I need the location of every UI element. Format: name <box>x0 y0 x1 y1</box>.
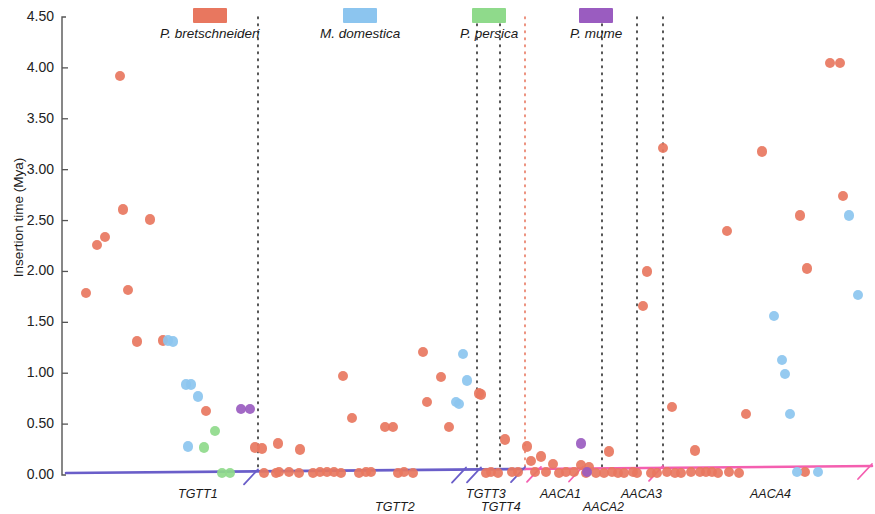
scatter-plot-figure: P. bretschneideriM. domesticaP. persicaP… <box>0 0 875 514</box>
scatter-point <box>576 438 586 448</box>
legend-swatch-icon <box>579 8 613 23</box>
scatter-point <box>422 397 432 407</box>
scatter-point <box>757 146 767 156</box>
group-label: TGTT2 <box>375 500 415 514</box>
scatter-point <box>199 442 209 452</box>
scatter-point <box>118 204 128 214</box>
scatter-point <box>642 266 652 276</box>
legend-item-label: P. bretschneideri <box>160 26 260 41</box>
legend-item-label: P. mume <box>570 26 622 41</box>
group-label: AACA2 <box>583 500 624 514</box>
legend-swatch-icon <box>343 8 377 23</box>
group-label: TGTT1 <box>178 487 218 501</box>
legend-item-label: M. domestica <box>320 26 400 41</box>
y-axis-tick-label: 0.00 <box>8 466 54 482</box>
scatter-point <box>476 389 486 399</box>
y-axis-title: Insertion time (Mya) <box>11 138 26 298</box>
legend-item[interactable]: P. mume <box>570 8 622 41</box>
y-axis-tick-label: 3.50 <box>8 110 54 126</box>
scatter-point <box>168 336 178 346</box>
scatter-point <box>522 441 532 451</box>
scatter-point <box>81 288 91 298</box>
group-label: AACA3 <box>621 487 662 501</box>
scatter-point <box>500 434 510 444</box>
scatter-point <box>273 438 283 448</box>
y-axis-tick-label: 4.50 <box>8 8 54 24</box>
scatter-point <box>604 446 614 456</box>
scatter-point <box>145 214 155 224</box>
scatter-point <box>802 263 812 273</box>
y-axis-tick-label: 1.50 <box>8 313 54 329</box>
scatter-point <box>295 444 305 454</box>
scatter-point <box>123 285 133 295</box>
scatter-point <box>526 456 536 466</box>
scatter-point <box>257 443 267 453</box>
scatter-point <box>186 379 196 389</box>
scatter-point <box>722 226 732 236</box>
legend: P. bretschneideriM. domesticaP. persicaP… <box>120 8 720 52</box>
y-axis-tick-label: 4.00 <box>8 59 54 75</box>
group-label: AACA4 <box>750 487 791 501</box>
scatter-point <box>462 375 472 385</box>
legend-item-label: P. persica <box>460 26 518 41</box>
group-label: TGTT4 <box>481 500 521 514</box>
scatter-point <box>536 451 546 461</box>
y-axis-spine <box>62 17 66 475</box>
scatter-point <box>132 336 142 346</box>
scatter-point <box>690 445 700 455</box>
plot-axes-layer <box>0 0 875 514</box>
scatter-point <box>451 397 461 407</box>
scatter-point <box>183 441 193 451</box>
legend-item[interactable]: P. bretschneideri <box>160 8 260 41</box>
scatter-point <box>667 402 677 412</box>
group-label: TGTT3 <box>466 487 506 501</box>
scatter-point <box>825 58 835 68</box>
legend-swatch-icon <box>193 8 227 23</box>
scatter-point <box>795 210 805 220</box>
scatter-point <box>835 58 845 68</box>
legend-item[interactable]: P. persica <box>460 8 518 41</box>
legend-swatch-icon <box>472 8 506 23</box>
scatter-point <box>193 391 203 401</box>
scatter-point <box>844 210 854 220</box>
y-axis-tick-label: 0.50 <box>8 415 54 431</box>
y-axis-tick-label: 1.00 <box>8 364 54 380</box>
group-label: AACA1 <box>540 487 581 501</box>
legend-item[interactable]: M. domestica <box>320 8 400 41</box>
